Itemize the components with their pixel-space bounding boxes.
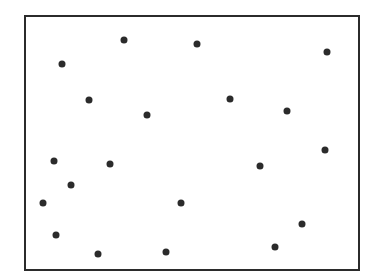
data-point — [322, 147, 329, 154]
data-point — [163, 249, 170, 256]
data-point — [53, 232, 60, 239]
data-point — [284, 108, 291, 115]
data-point — [51, 158, 58, 165]
data-point — [144, 112, 151, 119]
data-point — [324, 49, 331, 56]
data-point — [68, 182, 75, 189]
data-point — [272, 244, 279, 251]
data-point — [121, 37, 128, 44]
data-point — [59, 61, 66, 68]
scatter-plot-area — [0, 0, 379, 278]
data-point — [86, 97, 93, 104]
data-point — [107, 161, 114, 168]
data-point — [194, 41, 201, 48]
data-point — [299, 221, 306, 228]
data-point — [257, 163, 264, 170]
data-point — [40, 200, 47, 207]
data-point — [227, 96, 234, 103]
data-point — [178, 200, 185, 207]
data-point — [95, 251, 102, 258]
